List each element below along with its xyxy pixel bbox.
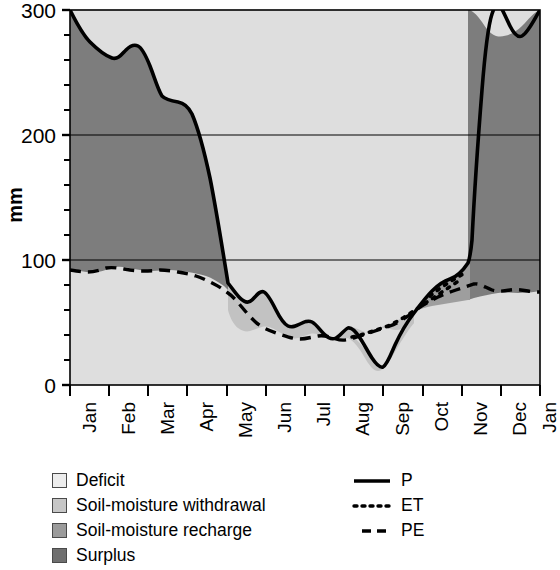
y-tick-label-300: 300 <box>21 0 56 22</box>
legend-item-deficit[interactable]: Deficit <box>52 468 266 493</box>
y-axis-ticks <box>62 10 70 385</box>
x-tick-label-nov: Nov <box>470 402 491 436</box>
x-axis-ticks <box>70 385 540 396</box>
x-tick-label-may: May <box>235 402 256 438</box>
water-balance-chart-svg: 300 200 100 0 mm <box>0 0 560 470</box>
y-tick-label-100: 100 <box>21 249 56 272</box>
x-tick-label-jul: Jul <box>313 402 334 426</box>
legend-label-et: ET <box>401 497 423 515</box>
soil-moisture-recharge-swatch-icon <box>52 523 67 538</box>
y-tick-label-0: 0 <box>44 374 56 397</box>
x-tick-label-feb: Feb <box>118 402 139 435</box>
solid-line-icon <box>352 473 392 488</box>
surplus-swatch-icon <box>52 548 67 563</box>
chart-plot-container: 300 200 100 0 mm <box>0 0 560 470</box>
x-tick-label-apr: Apr <box>196 401 217 431</box>
legend-item-p[interactable]: P <box>352 468 424 493</box>
x-tick-label-jan-end: Jan <box>539 402 560 433</box>
x-tick-label-sep: Sep <box>392 402 413 436</box>
soil-moisture-withdrawal-swatch-icon <box>52 498 67 513</box>
legend-item-pe[interactable]: PE <box>352 518 424 543</box>
x-tick-label-aug: Aug <box>352 402 373 436</box>
soil-moisture-recharge-area-upper <box>468 262 470 300</box>
legend-label-p: P <box>401 472 413 490</box>
legend-item-et[interactable]: ET <box>352 493 424 518</box>
legend-label-surplus: Surplus <box>76 547 135 565</box>
legend-label-deficit: Deficit <box>76 472 125 490</box>
y-tick-label-200: 200 <box>21 124 56 147</box>
legend-item-soil-moisture-withdrawal[interactable]: Soil-moisture withdrawal <box>52 493 266 518</box>
deficit-swatch-icon <box>52 473 67 488</box>
legend-label-pe: PE <box>401 522 424 540</box>
legend-label-soil-moisture-recharge: Soil-moisture recharge <box>76 522 252 540</box>
legend-line-column: P ET PE <box>352 468 424 543</box>
chart-legend: Deficit Soil-moisture withdrawal Soil-mo… <box>0 468 560 570</box>
legend-item-surplus[interactable]: Surplus <box>52 543 266 568</box>
x-tick-label-oct: Oct <box>431 401 452 431</box>
legend-label-soil-moisture-withdrawal: Soil-moisture withdrawal <box>76 497 266 515</box>
x-tick-label-dec: Dec <box>509 402 530 436</box>
x-tick-label-mar: Mar <box>157 401 178 434</box>
water-balance-chart-figure: 300 200 100 0 mm <box>0 0 560 570</box>
x-tick-label-jan: Jan <box>79 402 100 433</box>
x-tick-label-jun: Jun <box>274 402 295 433</box>
legend-area-column: Deficit Soil-moisture withdrawal Soil-mo… <box>52 468 266 568</box>
dotted-line-icon <box>352 498 392 513</box>
legend-item-soil-moisture-recharge[interactable]: Soil-moisture recharge <box>52 518 266 543</box>
y-axis-title: mm <box>4 187 26 223</box>
dashed-line-icon <box>352 523 392 538</box>
